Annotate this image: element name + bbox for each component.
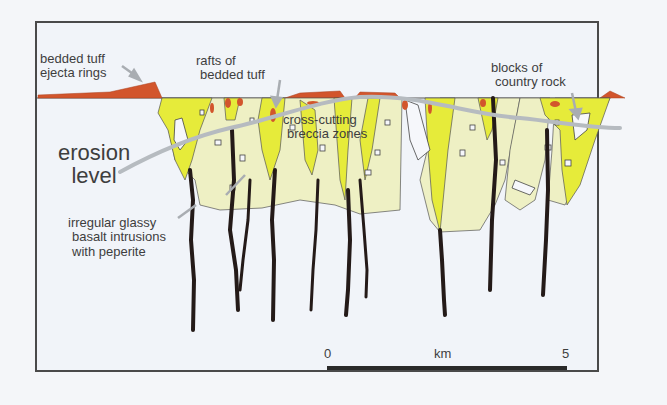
label-erosion-level: erosion level [58,141,130,187]
label-cross-cutting: cross-cutting breccia zones [283,113,367,142]
label-rafts: rafts of bedded tuff [196,54,265,83]
scale-end: 5 [562,347,569,361]
scale-unit: km [434,347,451,361]
label-basalt-intrusions: irregular glassy basalt intrusions with … [68,216,166,259]
scale-bar [327,366,567,370]
label-country-rock: blocks of country rock [491,61,566,90]
label-ejecta-rings: bedded tuff ejecta rings [40,52,106,81]
scale-start: 0 [324,347,331,361]
